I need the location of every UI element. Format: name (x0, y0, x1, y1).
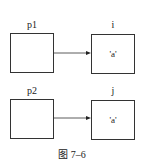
pointer-arrows (0, 0, 144, 167)
arrow-p2-to-j-icon (54, 116, 91, 120)
arrow-p1-to-i-icon (54, 51, 91, 55)
figure-caption: 图 7–6 (0, 149, 144, 161)
